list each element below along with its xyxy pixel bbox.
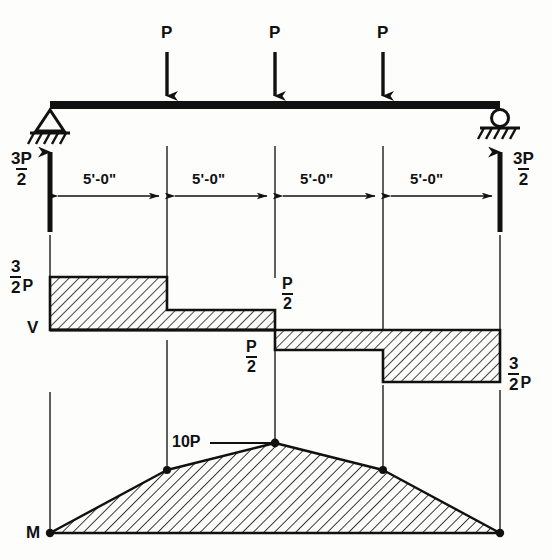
shear-left-denominator: 2 [10, 276, 21, 296]
shear-right-unit: P [519, 374, 531, 394]
shear-mid-lower-denominator: 2 [246, 356, 257, 375]
point-load-label-3: P [377, 24, 388, 41]
moment-axis-label: M [26, 524, 40, 541]
shear-mid-upper-denominator: 2 [282, 293, 293, 312]
beam-member [50, 101, 500, 109]
dimension-label-4: 5'-0" [410, 171, 443, 186]
point-load-label-1: P [161, 24, 172, 41]
right-reaction-denominator: 2 [518, 168, 529, 188]
shear-right-numerator: 3 [508, 355, 519, 372]
diagram-vector-layer [0, 0, 552, 560]
moment-vertex-left [46, 529, 54, 537]
shear-mid-lower-numerator: P [245, 339, 258, 355]
left-reaction-numerator: 3P [10, 150, 33, 167]
dimension-label-1: 5'-0" [83, 171, 116, 186]
dimension-label-2: 5'-0" [192, 171, 225, 186]
shear-mid-lower-value-label: P 2 [245, 339, 258, 376]
shear-right-denominator: 2 [508, 373, 519, 393]
shear-left-value-label: 3 2 P [10, 258, 33, 297]
right-reaction-label: 3P 2 [512, 150, 535, 189]
right-reaction-numerator: 3P [512, 150, 535, 167]
moment-vertex-right [496, 529, 504, 537]
left-reaction-label: 3P 2 [10, 150, 33, 189]
moment-vertex-1 [163, 466, 171, 474]
right-roller-support-icon [478, 110, 520, 140]
moment-vertex-3 [379, 466, 387, 474]
shear-axis-label: V [27, 319, 38, 336]
dimension-label-3: 5'-0" [300, 171, 333, 186]
shear-mid-upper-value-label: P 2 [281, 276, 294, 313]
moment-diagram [46, 439, 504, 538]
left-reaction-denominator: 2 [16, 168, 27, 188]
left-pin-support-icon [28, 110, 70, 144]
shear-left-numerator: 3 [10, 258, 21, 275]
max-moment-label: 10P [172, 434, 200, 450]
shear-mid-upper-numerator: P [281, 276, 294, 292]
beam-diagram-figure: P P P 3P 2 3P 2 5'-0" 5'-0" 5'-0" 5'-0" … [0, 0, 552, 560]
point-load-label-2: P [269, 24, 280, 41]
shear-right-value-label: 3 2 P [508, 355, 531, 394]
shear-left-unit: P [21, 277, 33, 297]
